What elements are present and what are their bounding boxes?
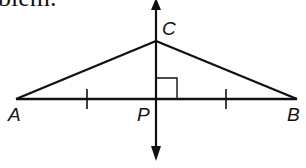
arrow-down-icon	[151, 146, 161, 161]
cropped-problem-text: blem.	[0, 0, 57, 11]
label-p: P	[137, 104, 150, 125]
label-b: B	[287, 104, 300, 125]
triangle-diagram: C A P B	[0, 0, 306, 168]
label-c: C	[162, 18, 176, 39]
label-a: A	[7, 104, 21, 125]
diagram-canvas: blem. C A P B	[0, 0, 306, 168]
segment-ac	[16, 41, 156, 99]
arrow-up-icon	[151, 0, 161, 10]
right-angle-marker	[156, 78, 177, 99]
